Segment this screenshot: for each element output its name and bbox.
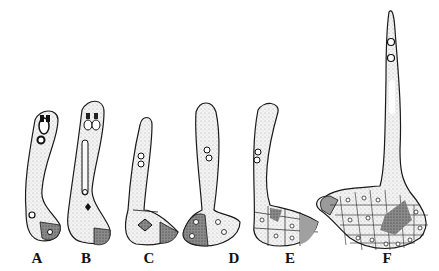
panel-label-e: E	[285, 250, 295, 267]
figure-illustration	[0, 0, 439, 271]
panel-label-d: D	[229, 250, 240, 267]
panel-label-c: C	[144, 250, 155, 267]
panel-b-drawing	[68, 101, 111, 245]
panel-c-drawing	[126, 118, 178, 245]
panel-f-drawing	[317, 11, 428, 250]
panel-e-drawing	[254, 103, 318, 246]
panel-label-a: A	[32, 250, 43, 267]
panel-d-drawing	[183, 103, 240, 246]
panel-a-drawing	[25, 111, 60, 241]
panel-label-f: F	[382, 250, 391, 267]
panel-label-b: B	[81, 250, 91, 267]
